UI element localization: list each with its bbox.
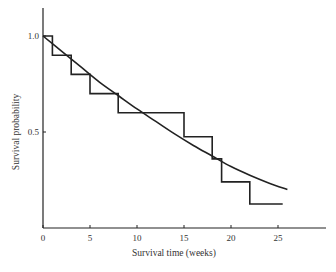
km-step-line — [43, 36, 283, 204]
axes: 05101520250.51.0 — [28, 8, 326, 243]
y-axis-title: Survival probability — [11, 94, 21, 171]
survival-chart: 05101520250.51.0 Survival time (weeks) S… — [0, 0, 336, 272]
y-tick-label: 1.0 — [28, 31, 40, 41]
y-tick-label: 0.5 — [28, 127, 40, 137]
plot-area — [43, 36, 287, 204]
x-tick-label: 20 — [227, 233, 237, 243]
x-tick-label: 15 — [180, 233, 190, 243]
x-tick-label: 5 — [88, 233, 93, 243]
x-tick-label: 25 — [274, 233, 284, 243]
x-axis-title: Survival time (weeks) — [132, 248, 216, 259]
x-tick-label: 0 — [41, 233, 46, 243]
x-tick-label: 10 — [133, 233, 143, 243]
